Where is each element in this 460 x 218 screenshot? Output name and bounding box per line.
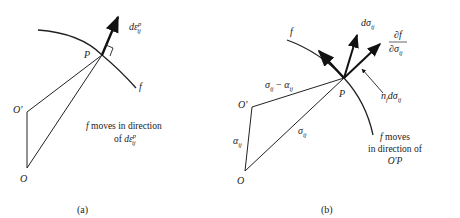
yield-surface-curve-b [287,40,373,135]
vector-label-depsilon-a: dεpij [129,20,142,34]
svg-text:∂f: ∂f [394,29,403,40]
caption-b: (b) [321,204,333,216]
note-line3-b: O'P [388,156,403,166]
surface-label-f-a: f [139,81,143,92]
diagram-canvas: P O' O f dεpij ff moves in direction mov… [0,0,460,218]
point-label-o-b: O [237,175,244,186]
normal-component-label: nfdσij [381,90,402,103]
segment-o-prime-p-a [27,55,102,112]
caption-a: (a) [77,204,88,216]
note-line1-b: f movesf moves [380,132,410,142]
note-line2-b: in direction of [368,144,423,154]
point-label-p-a: P [83,49,90,60]
normal-component-pointer [362,69,383,93]
surface-label-f-b: f [290,26,294,37]
segment-label-sigma: σij [298,125,307,138]
point-label-o-prime-a: O' [13,104,23,115]
point-label-o-a: O [20,173,27,184]
svg-text:∂σij: ∂σij [389,43,403,56]
panel-a: P O' O f dεpij ff moves in direction mov… [13,17,162,216]
note-line1-a: ff moves in direction moves in direction [86,121,162,131]
segment-o-o-prime-b [245,107,252,171]
segment-o-p-b [245,78,344,171]
segment-o-p-a [27,55,102,168]
panel-b: P O' O f dσij ∂f ∂σij nfdσij σij − αij α… [233,17,423,216]
point-label-o-prime-b: O' [238,99,248,110]
vector-label-gradient: ∂f ∂σij [389,29,407,56]
plastic-strain-vector-arrow [102,17,118,55]
note-line2-a: of dεpij [114,132,137,146]
segment-label-sigma-minus-alpha: σij − αij [265,79,293,92]
point-label-p-b: P [338,88,345,99]
tangential-component-arrow [319,51,344,78]
segment-label-alpha: αij [233,135,242,148]
vector-label-dsigma: dσij [361,17,375,30]
right-angle-marker [106,45,113,56]
